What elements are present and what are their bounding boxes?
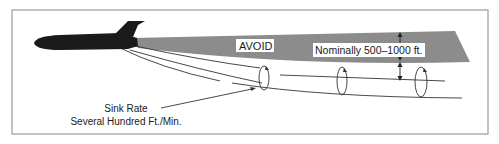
sink-rate-label: Sink Rate <box>104 103 148 114</box>
avoid-label: AVOID <box>239 40 272 52</box>
sink-rate-value-label: Several Hundred Ft./Min. <box>70 116 181 127</box>
wake-turbulence-diagram: AVOID Nominally 500–1000 ft. Sink Rate S… <box>0 0 499 144</box>
separation-label: Nominally 500–1000 ft. <box>315 44 422 56</box>
